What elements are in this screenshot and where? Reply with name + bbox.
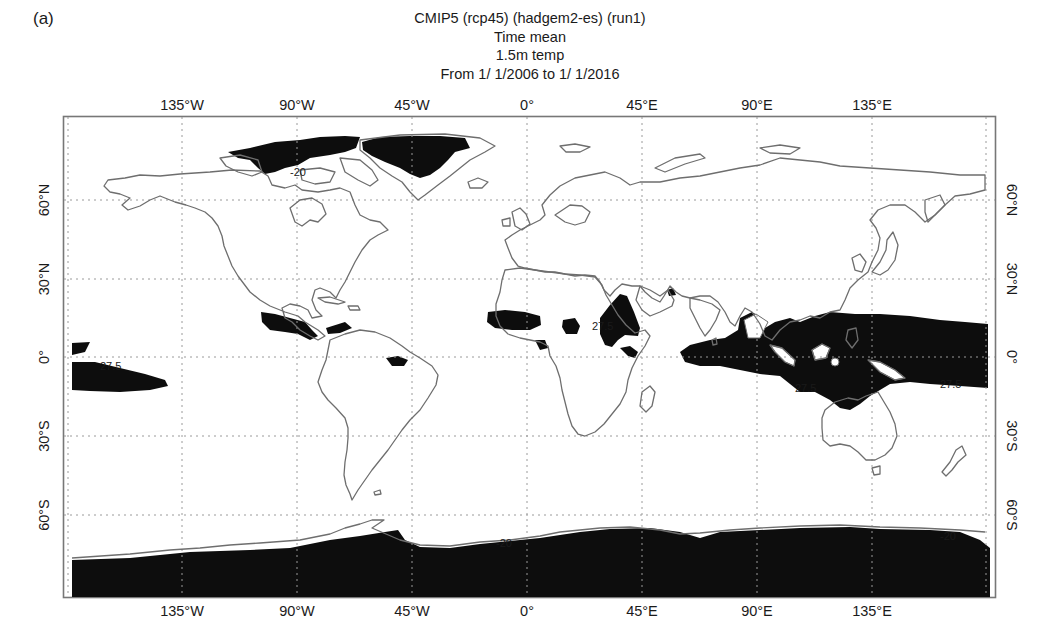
contour-label: -20 — [496, 537, 512, 549]
contour-label: 27.5 — [795, 382, 816, 394]
contour-label: 27.5 — [940, 378, 961, 390]
contour-label: 27.5 — [100, 360, 121, 372]
contour-label: -20 — [940, 530, 956, 542]
map-plot: 27.5 27.5 27.5 27.5 -20 -20 -20 — [0, 0, 1058, 626]
contour-label: -20 — [290, 166, 306, 178]
contour-label: 27.5 — [592, 320, 613, 332]
